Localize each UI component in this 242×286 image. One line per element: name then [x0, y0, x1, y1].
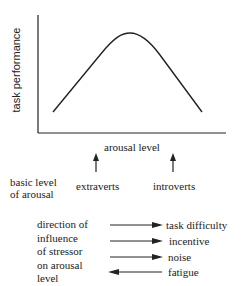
fatigue-arrow-icon: [108, 269, 162, 275]
incentive-label: incentive: [169, 235, 209, 247]
task-difficulty-label: task difficulty: [166, 219, 227, 231]
noise-arrow-icon: [110, 254, 163, 260]
x-axis-label: arousal level: [104, 141, 160, 153]
task-difficulty-arrow-icon: [110, 222, 163, 228]
performance-curve: [53, 33, 202, 112]
incentive-arrow-icon: [110, 238, 163, 244]
introverts-arrow-icon: [170, 153, 176, 172]
extraverts-label: extraverts: [76, 180, 119, 192]
fatigue-label: fatigue: [168, 266, 199, 278]
y-axis-label: task performance: [8, 20, 24, 120]
introverts-label: introverts: [153, 180, 195, 192]
basic-level-label: basic level of arousal: [10, 176, 57, 200]
extraverts-arrow-icon: [93, 153, 99, 172]
stressor-label: direction of influence of stressor on ar…: [37, 218, 88, 286]
noise-label: noise: [168, 251, 191, 263]
y-axis-label-text: task performance: [10, 28, 22, 113]
